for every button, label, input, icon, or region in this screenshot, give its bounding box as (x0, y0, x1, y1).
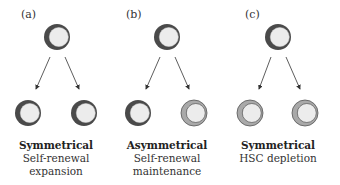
description-line: Self-renewal (112, 152, 222, 165)
description-line: Self-renewal (1, 152, 111, 165)
description-line: expansion (1, 165, 111, 178)
description-line: HSC depletion (223, 152, 333, 165)
arrow-left (36, 57, 50, 89)
division-type: Symmetrical (1, 139, 111, 152)
panel-label-c: (c) (245, 8, 260, 21)
division-type: Symmetrical (223, 139, 333, 152)
parent-stem-cell (265, 24, 291, 50)
division-type: Asymmetrical (112, 139, 222, 152)
caption-b: Asymmetrical Self-renewal maintenance (112, 139, 222, 178)
arrow-left (259, 57, 271, 89)
arrow-right (286, 57, 300, 89)
daughter-stem-cell (71, 100, 97, 126)
daughter-stem-cell (15, 100, 41, 126)
parent-stem-cell (154, 24, 180, 50)
daughter-differentiated-cell (237, 100, 263, 126)
panel-a (15, 24, 97, 126)
arrow-left (146, 57, 160, 89)
description-line: maintenance (112, 165, 222, 178)
caption-a: Symmetrical Self-renewal expansion (1, 139, 111, 178)
parent-stem-cell (44, 24, 70, 50)
daughter-differentiated-cell (292, 100, 318, 126)
daughter-stem-cell (125, 100, 151, 126)
panel-label-a: (a) (21, 8, 36, 21)
panel-b (125, 24, 207, 126)
caption-c: Symmetrical HSC depletion (223, 139, 333, 165)
arrow-right (65, 57, 79, 89)
panel-label-b: (b) (126, 8, 142, 21)
panel-c (237, 24, 318, 126)
arrow-right (175, 57, 189, 89)
daughter-differentiated-cell (181, 100, 207, 126)
